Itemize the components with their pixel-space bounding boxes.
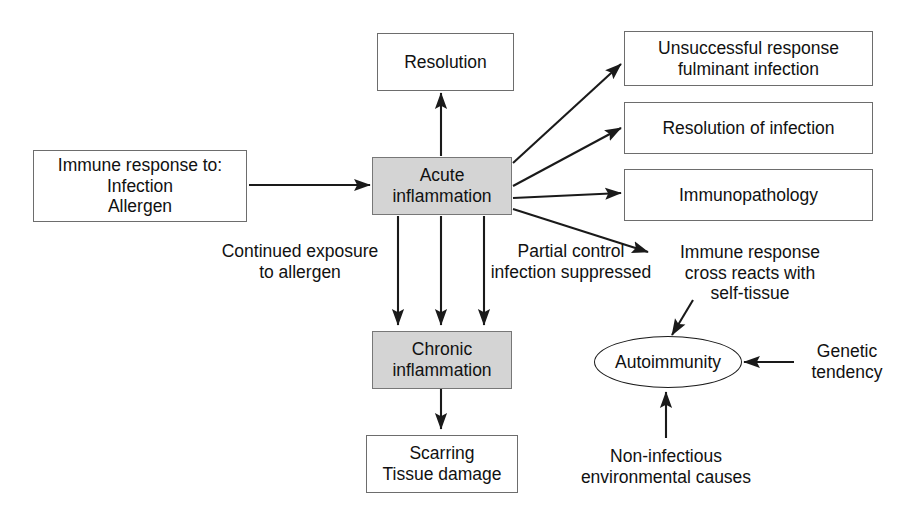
- edge-label-continued-exposure-line1: Continued exposure: [222, 241, 379, 262]
- node-resolution-of-infection[interactable]: Resolution of infection: [624, 102, 873, 154]
- edge-label-partial-control-line1: Partial control: [518, 241, 625, 262]
- edge-label-cross-reacts-line1: Immune response: [680, 242, 820, 263]
- node-acute-inflammation-line2: inflammation: [392, 186, 491, 207]
- inflammation-flow-diagram: Immune response to: Infection Allergen A…: [0, 0, 903, 526]
- node-resolution-line1: Resolution: [404, 52, 487, 73]
- edge-acute-to-unsuccessful: [513, 64, 621, 163]
- node-immunopathology[interactable]: Immunopathology: [624, 169, 873, 221]
- edge-acute-to-resolution-infection: [513, 128, 621, 186]
- node-autoimmunity-line1: Autoimmunity: [615, 352, 721, 373]
- edge-label-genetic-tendency: Genetic tendency: [797, 338, 897, 386]
- node-unsuccessful-response[interactable]: Unsuccessful response fulminant infectio…: [624, 31, 873, 86]
- node-chronic-inflammation-line2: inflammation: [392, 360, 491, 381]
- node-autoimmunity[interactable]: Autoimmunity: [594, 336, 742, 388]
- edge-label-cross-reacts: Immune response cross reacts with self-t…: [652, 238, 848, 308]
- node-scarring-line1: Scarring: [409, 443, 474, 464]
- node-scarring-line2: Tissue damage: [383, 464, 502, 485]
- node-immune-response-line3: Allergen: [108, 196, 172, 217]
- edge-label-continued-exposure-line2: to allergen: [259, 262, 341, 283]
- node-chronic-inflammation-line1: Chronic: [412, 339, 472, 360]
- node-immune-response-line2: Infection: [107, 176, 173, 197]
- node-immune-response-line1: Immune response to:: [58, 155, 222, 176]
- node-acute-inflammation-line1: Acute: [420, 165, 465, 186]
- edge-label-non-infectious-line1: Non-infectious: [610, 446, 722, 467]
- node-immunopathology-line1: Immunopathology: [679, 185, 818, 206]
- edge-acute-to-immunopathology: [513, 193, 621, 198]
- node-immune-response[interactable]: Immune response to: Infection Allergen: [33, 150, 247, 222]
- node-unsuccessful-response-line2: fulminant infection: [678, 59, 819, 80]
- node-chronic-inflammation[interactable]: Chronic inflammation: [372, 331, 512, 389]
- node-acute-inflammation[interactable]: Acute inflammation: [372, 157, 512, 215]
- node-unsuccessful-response-line1: Unsuccessful response: [658, 38, 839, 59]
- edge-label-genetic-tendency-line2: tendency: [811, 362, 882, 383]
- edge-label-cross-reacts-line2: cross reacts with: [685, 263, 815, 284]
- edge-label-partial-control: Partial control infection suppressed: [471, 238, 671, 286]
- node-resolution[interactable]: Resolution: [377, 33, 514, 91]
- edge-label-genetic-tendency-line1: Genetic: [817, 341, 877, 362]
- edge-label-continued-exposure: Continued exposure to allergen: [202, 238, 398, 286]
- edge-label-non-infectious: Non-infectious environmental causes: [561, 443, 771, 491]
- node-resolution-of-infection-line1: Resolution of infection: [662, 118, 834, 139]
- edge-label-partial-control-line2: infection suppressed: [491, 262, 652, 283]
- edge-label-cross-reacts-line3: self-tissue: [711, 283, 790, 304]
- node-scarring-tissue-damage[interactable]: Scarring Tissue damage: [366, 435, 518, 493]
- edge-label-non-infectious-line2: environmental causes: [581, 467, 751, 488]
